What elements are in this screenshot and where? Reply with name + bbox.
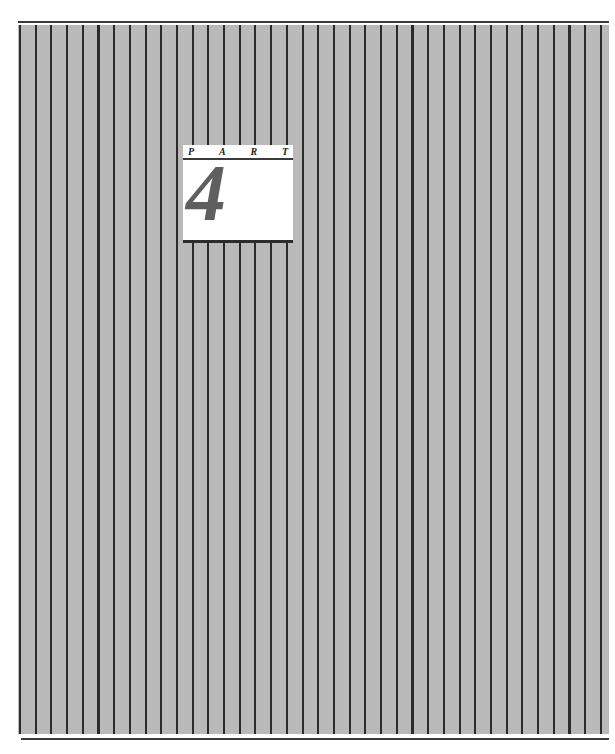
card-bottom-rule [183, 240, 293, 243]
top-rule [18, 21, 609, 23]
part-card: P A R T 4 [183, 145, 293, 240]
part-letter-t: T [282, 146, 288, 157]
part-number: 4 [186, 153, 226, 233]
part-letter-r: R [250, 146, 257, 157]
striped-panel: P A R T 4 [18, 25, 609, 734]
bottom-rule [21, 738, 609, 740]
